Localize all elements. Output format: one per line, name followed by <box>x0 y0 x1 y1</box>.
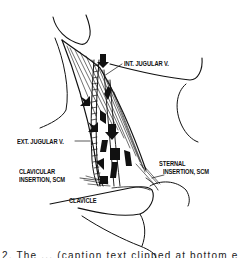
label-int-jugular-vein: INT. JUGULAR V. <box>124 60 169 68</box>
label-sternal-insertion-line1: STERNAL <box>159 160 186 168</box>
label-ext-jugular-vein: EXT. JUGULAR V. <box>17 138 64 146</box>
figure-caption: 2. The ... (caption text clipped at bott… <box>2 250 238 258</box>
label-clavicular-insertion-line1: CLAVICULAR <box>19 168 55 176</box>
label-clavicular-insertion-line2: INSERTION, SCM <box>19 176 65 184</box>
anatomical-figure: INT. JUGULAR V. EXT. JUGULAR V. CLAVICUL… <box>0 0 238 258</box>
label-clavicle: CLAVICLE <box>69 197 97 205</box>
label-sternal-insertion-line2: INSERTION, SCM <box>163 168 209 176</box>
neck-illustration <box>0 0 238 258</box>
